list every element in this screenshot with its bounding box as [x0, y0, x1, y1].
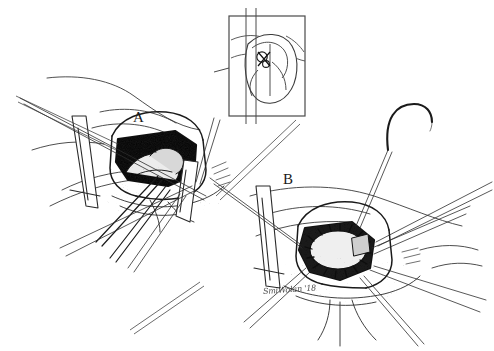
surgical-illustration-figure: A B SmiWolan '18 [0, 0, 494, 351]
panel-a-label: A [133, 110, 144, 125]
inset-heart [245, 34, 297, 103]
illustration-artboard [0, 0, 494, 351]
panel-b-label: B [283, 172, 294, 187]
